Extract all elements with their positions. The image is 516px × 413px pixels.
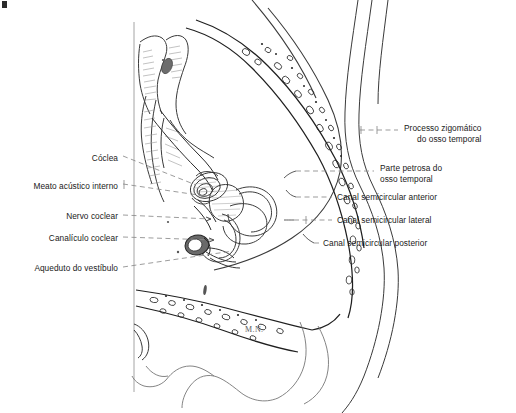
scalp-contours: [342, 0, 398, 413]
artist-signature: M.N.: [245, 325, 264, 334]
label-processo-zigomatico-line1: Processo zigomático: [404, 123, 482, 134]
label-canal-semicircular-anterior: Canal semicircular anterior: [337, 192, 437, 203]
label-coclea: Cóclea: [92, 153, 118, 164]
label-canaliculo-coclear-text: Canalículo coclear: [49, 233, 118, 243]
leader-lines-right: [294, 130, 398, 243]
cochlear-canaliculus: [183, 233, 211, 258]
label-nervo-coclear: Nervo coclear: [66, 211, 118, 222]
leader-ticks-right: [306, 126, 377, 224]
label-processo-zigomatico: Processo zigomático do osso temporal: [404, 123, 482, 144]
label-meato-acustico-interno: Meato acústico interno: [33, 181, 118, 192]
label-aqueduto-do-vestibulo: Aqueduto do vestíbulo: [34, 263, 118, 274]
leader-nervo-coclear: [123, 215, 210, 219]
label-parte-petrosa-line1: Parte petrosa do: [380, 163, 442, 174]
label-parte-petrosa: Parte petrosa do osso temporal: [380, 163, 442, 184]
label-canal-semicircular-lateral: Canal semicircular lateral: [337, 215, 431, 226]
label-canal-semicircular-anterior-text: Canal semicircular anterior: [337, 192, 437, 202]
label-canal-semicircular-posterior: Canal semicircular posterior: [323, 238, 427, 249]
lower-left-bone-detail: [134, 324, 149, 360]
label-canaliculo-coclear: Canalículo coclear: [49, 233, 118, 244]
internal-acoustic-meatus: [152, 110, 218, 192]
label-processo-zigomatico-line2: do osso temporal: [404, 134, 482, 145]
label-canal-semicircular-lateral-text: Canal semicircular lateral: [337, 215, 431, 225]
leader-meato: [123, 184, 205, 196]
mandible-contours: [132, 322, 329, 408]
cranial-base-bone: [136, 290, 340, 352]
semicircular-canal-anterior: [228, 187, 277, 236]
anatomical-figure: M.N.: [0, 0, 516, 413]
petrous-bone-band: [186, 20, 364, 318]
label-parte-petrosa-line2: osso temporal: [380, 174, 442, 185]
leader-connectors-right: [284, 171, 314, 243]
leader-arrowheads-left: [206, 217, 214, 242]
leader-aqueduto: [123, 251, 233, 267]
label-coclea-text: Cóclea: [92, 153, 118, 163]
label-canal-semicircular-posterior-text: Canal semicircular posterior: [323, 238, 427, 248]
trabecular-bone-stipple: [241, 43, 362, 295]
label-meato-acustico-interno-text: Meato acústico interno: [33, 181, 118, 191]
label-nervo-coclear-text: Nervo coclear: [66, 211, 118, 221]
midfield-marks: [162, 59, 207, 295]
label-aqueduto-do-vestibulo-text: Aqueduto do vestíbulo: [34, 263, 118, 273]
